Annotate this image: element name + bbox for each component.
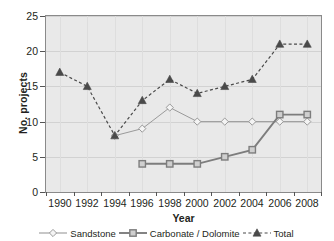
y-axis-label: 10 — [4, 117, 38, 127]
data-point-marker — [248, 75, 256, 82]
data-point-marker — [194, 118, 201, 125]
series-layer — [46, 16, 321, 192]
data-point-marker — [249, 118, 256, 125]
data-point-marker — [138, 96, 146, 103]
data-point-marker — [276, 40, 284, 47]
legend-item-carbonate-dolomite[interactable]: Carbonate / Dolomite — [118, 227, 242, 239]
x-axis-tick — [294, 192, 295, 196]
x-axis-tick — [321, 192, 322, 196]
x-axis-tick — [184, 192, 185, 196]
data-point-marker — [304, 111, 310, 117]
legend-label: Total — [272, 228, 296, 239]
legend-marker-open-diamond-icon — [38, 227, 68, 239]
legend-item-sandstone[interactable]: Sandstone — [38, 227, 117, 239]
y-axis-tick — [40, 86, 45, 87]
x-axis-tick — [46, 192, 47, 196]
x-axis-tick — [266, 192, 267, 196]
x-axis-tick — [211, 192, 212, 196]
data-point-marker — [194, 161, 200, 167]
y-axis-label: 5 — [4, 152, 38, 162]
y-axis-tick — [40, 16, 45, 17]
line-chart: No. projects 0510152025 1990199219941996… — [0, 0, 334, 241]
x-axis-tick — [74, 192, 75, 196]
data-point-marker — [83, 82, 91, 89]
legend-label: Sandstone — [68, 228, 117, 239]
legend-marker-filled-triangle-icon — [242, 227, 272, 239]
data-point-marker — [304, 118, 311, 125]
legend-item-total[interactable]: Total — [242, 227, 296, 239]
data-point-marker — [222, 154, 228, 160]
data-point-marker — [221, 118, 228, 125]
x-axis-tick — [156, 192, 157, 196]
y-axis-label: 25 — [4, 11, 38, 21]
y-axis-tick — [40, 122, 45, 123]
y-axis-tick — [40, 51, 45, 52]
y-axis-label: 20 — [4, 46, 38, 56]
x-axis-title: Year — [45, 212, 322, 224]
data-point-marker — [303, 40, 311, 47]
data-point-marker — [167, 161, 173, 167]
x-axis-tick — [129, 192, 130, 196]
y-axis-label: 15 — [4, 81, 38, 91]
plot-area — [45, 15, 322, 193]
y-axis-label: 0 — [4, 187, 38, 197]
data-point-marker — [277, 111, 283, 117]
x-axis-tick — [101, 192, 102, 196]
y-axis-tick — [40, 157, 45, 158]
x-axis-label: 2008 — [287, 197, 327, 209]
x-axis-tick — [239, 192, 240, 196]
series-sandstone — [111, 104, 311, 139]
data-point-marker — [166, 75, 174, 82]
legend-label: Carbonate / Dolomite — [148, 228, 242, 239]
data-point-marker — [56, 68, 64, 75]
legend-marker-open-square-icon — [118, 227, 148, 239]
y-axis-tick — [40, 192, 45, 193]
chart-legend: SandstoneCarbonate / DolomiteTotal — [0, 227, 334, 239]
data-point-marker — [249, 147, 255, 153]
data-point-marker — [139, 161, 145, 167]
